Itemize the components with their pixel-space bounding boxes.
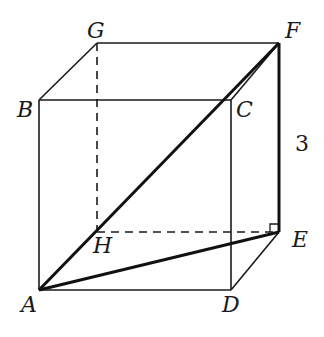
vertex-label-b: B xyxy=(16,97,33,122)
vertex-label-e: E xyxy=(291,227,308,252)
vertex-label-g: G xyxy=(87,18,105,43)
cube-svg: G F B C H E A D 3 xyxy=(0,0,324,337)
edge-length-label: 3 xyxy=(295,131,309,156)
segment-af xyxy=(39,43,279,290)
vertex-label-d: D xyxy=(221,292,240,317)
vertex-label-a: A xyxy=(19,292,37,317)
cube-diagram: G F B C H E A D 3 xyxy=(0,0,324,337)
vertex-label-h: H xyxy=(92,233,113,258)
vertex-label-f: F xyxy=(284,18,301,43)
vertex-label-c: C xyxy=(236,97,253,122)
segment-ae xyxy=(39,232,279,290)
edge-bg xyxy=(39,43,97,100)
